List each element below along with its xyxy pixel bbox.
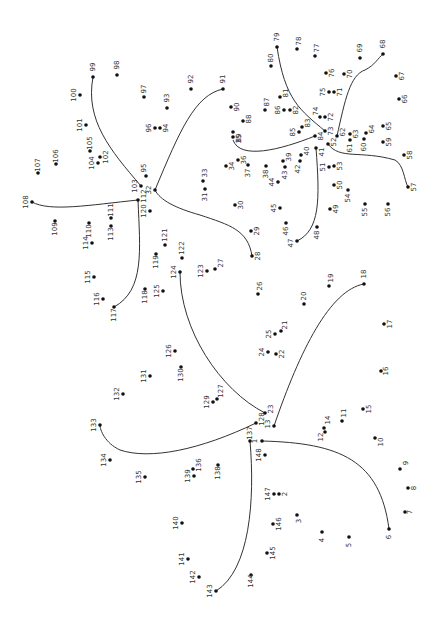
- dot-129: 129: [203, 395, 215, 408]
- dot-105: 105: [86, 136, 94, 152]
- dot-marker: [297, 130, 301, 134]
- dot-marker: [189, 87, 193, 91]
- dot-number-label: 50: [336, 181, 344, 190]
- dot-number-label: 148: [255, 448, 263, 461]
- dot-number-label: 117: [110, 308, 118, 321]
- dot-140: 140: [172, 516, 184, 529]
- dot-55: 55: [361, 202, 369, 216]
- dot-47: 47: [287, 239, 299, 248]
- dot-number-label: 93: [163, 94, 171, 103]
- dot-135: 135: [135, 470, 147, 483]
- dot-number-label: 55: [361, 208, 369, 217]
- dot-79: 79: [273, 33, 281, 49]
- dot-number-label: 91: [219, 75, 227, 84]
- dot-number-label: 48: [313, 231, 321, 240]
- dot-number-label: 38: [262, 170, 270, 179]
- dot-marker: [256, 292, 260, 296]
- dot-number-label: 6: [385, 534, 393, 539]
- dot-145: 145: [265, 546, 277, 559]
- dot-14: 14: [322, 415, 332, 430]
- dot-number-label: 87: [263, 98, 271, 107]
- dot-115: 115: [84, 270, 96, 283]
- dot-number-label: 57: [410, 183, 418, 192]
- dot-number-label: 102: [102, 150, 110, 163]
- dot-marker: [98, 423, 102, 427]
- dot-130: 130: [177, 365, 185, 381]
- dot-marker: [362, 282, 366, 286]
- dot-number-label: 44: [268, 177, 276, 186]
- dot-number-label: 134: [100, 453, 108, 467]
- dot-106: 106: [52, 149, 60, 166]
- dot-number-label: 131: [140, 369, 148, 382]
- dot-to-dot-canvas: 1234567891011121314151617181920212223242…: [0, 0, 439, 624]
- dot-marker: [142, 95, 146, 99]
- dot-15: 15: [361, 405, 373, 414]
- dot-number-label: 88: [245, 115, 253, 124]
- dot-2: 2: [277, 492, 289, 496]
- dot-number-label: 141: [178, 552, 186, 565]
- dot-number-label: 8: [410, 486, 418, 490]
- dot-number-label: 146: [275, 517, 283, 531]
- dot-marker: [264, 164, 268, 168]
- dot-10: 10: [373, 436, 385, 446]
- dot-number-label: 115: [84, 270, 92, 283]
- dot-marker: [153, 188, 157, 192]
- dot-number-label: 52: [330, 138, 338, 147]
- dot-137: 137: [246, 426, 254, 442]
- dot-number-label: 25: [265, 330, 273, 339]
- dot-number-label: 119: [152, 255, 160, 268]
- dot-110: 110: [85, 221, 93, 237]
- dot-133: 133: [90, 418, 102, 431]
- dot-number-label: 71: [336, 88, 344, 97]
- dot-marker: [214, 589, 218, 593]
- dot-148: 148: [255, 448, 267, 461]
- dot-number-label: 49: [332, 205, 340, 214]
- dot-number-label: 34: [228, 161, 236, 170]
- dot-number-label: 133: [90, 418, 98, 431]
- dot-31: 31: [201, 187, 209, 201]
- dot-marker: [201, 179, 205, 183]
- dot-marker: [197, 575, 201, 579]
- dot-number-label: 143: [206, 584, 214, 597]
- dot-138: 138: [214, 463, 222, 479]
- dot-number-label: 144: [247, 574, 255, 588]
- dot-71: 71: [332, 88, 344, 97]
- dot-marker: [165, 106, 169, 110]
- dot-number-label: 86: [274, 105, 282, 114]
- dot-number-label: 130: [177, 368, 185, 381]
- dot-number-label: 69: [356, 44, 364, 53]
- dot-number-label: 112: [140, 189, 148, 202]
- dot-number-label: 78: [295, 37, 303, 46]
- dot-number-label: 85: [289, 128, 297, 137]
- dot-marker: [186, 557, 190, 561]
- dot-44: 44: [268, 177, 280, 186]
- dot-87: 87: [263, 98, 271, 112]
- dot-109: 109: [51, 219, 59, 235]
- dot-101: 101: [76, 118, 88, 131]
- dot-number-label: 18: [360, 270, 368, 279]
- dot-marker: [322, 426, 326, 430]
- dot-125: 125: [153, 284, 165, 297]
- dot-22: 22: [274, 350, 286, 359]
- dot-4: 4: [318, 530, 326, 542]
- dot-107: 107: [34, 158, 42, 174]
- dot-77: 77: [313, 44, 321, 58]
- dot-number-label: 45: [270, 204, 278, 213]
- guide-curves: [32, 47, 408, 591]
- dot-number-label: 47: [287, 239, 295, 248]
- dot-marker: [143, 475, 147, 479]
- dot-marker: [78, 93, 82, 97]
- dot-number-label: 21: [281, 321, 289, 330]
- dot-number-label: 65: [385, 122, 393, 131]
- dot-number-label: 77: [313, 44, 321, 53]
- dot-21: 21: [279, 321, 289, 333]
- dot-number-label: 105: [86, 136, 94, 149]
- dot-91: 91: [219, 75, 227, 91]
- dot-marker: [320, 530, 324, 534]
- dot-marker: [90, 241, 94, 245]
- dot-number-label: 58: [406, 151, 414, 160]
- dot-number-label: 127: [217, 384, 225, 397]
- dot-49: 49: [328, 205, 340, 214]
- dot-number-label: 107: [34, 158, 42, 171]
- dot-number-label: 80: [267, 54, 275, 63]
